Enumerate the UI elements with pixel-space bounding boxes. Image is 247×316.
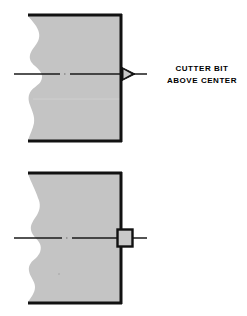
label-above-line-1: CUTTER BIT [159,63,245,75]
cutter-bit-below-center [118,230,133,247]
panel-cutter-bit-below-center: CUTTER BIT BELOW CENTER [0,158,247,316]
cutter-bit-square-below [118,230,133,247]
panel-cutter-bit-above-center: CUTTER BIT ABOVE CENTER [0,0,247,158]
workpiece-speck-below [58,273,60,275]
cutter-bit-diagram-figure: CUTTER BIT ABOVE CENTER [0,0,247,316]
label-above-line-2: ABOVE CENTER [159,75,245,87]
cutter-bit-above-center [122,68,135,81]
workpiece-fill-above [28,16,121,140]
workpiece-above [28,14,122,142]
label-cutter-bit-above-center: CUTTER BIT ABOVE CENTER [159,63,245,86]
